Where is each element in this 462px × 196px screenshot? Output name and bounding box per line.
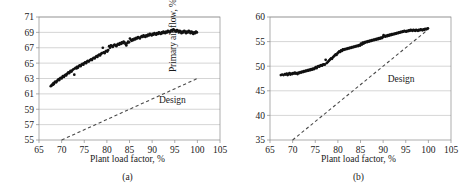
chart-a-data-point [128, 41, 131, 44]
chart-b-y-tick-label: 40 [256, 111, 266, 121]
chart-b-x-tick-label: 80 [333, 145, 343, 155]
chart-b-y-tick-label: 60 [256, 12, 266, 22]
chart-b-y-axis-label: Primary air flow, % of fan capacity [166, 0, 180, 80]
chart-b-y-tick-label: 45 [256, 86, 266, 96]
chart-b-design-annotation: Design [388, 74, 415, 84]
chart-b-x-tick-label: 90 [378, 145, 388, 155]
chart-a-x-tick-label: 70 [57, 145, 67, 155]
chart-a-y-tick-label: 63 [25, 74, 35, 84]
chart-b-data-point [427, 27, 430, 30]
chart-panel-a: 55575961636567697165707580859095100105De… [0, 0, 231, 196]
chart-a-x-tick-label: 80 [102, 145, 112, 155]
chart-b-x-tick-label: 70 [288, 145, 298, 155]
chart-a-design-annotation: Design [159, 95, 186, 105]
chart-a-caption: (a) [30, 172, 225, 182]
chart-b-data-point [324, 58, 327, 61]
chart-a-y-tick-label: 67 [25, 43, 35, 53]
chart-b-svg: 35404550556065707580859095100105Design [231, 0, 462, 196]
figure-container: 55575961636567697165707580859095100105De… [0, 0, 462, 196]
chart-b-plot-frame [270, 17, 451, 140]
chart-b-caption: (b) [261, 172, 456, 182]
chart-a-y-tick-label: 65 [25, 59, 35, 69]
chart-a-svg: 55575961636567697165707580859095100105De… [0, 0, 231, 196]
chart-b-x-tick-label: 85 [356, 145, 366, 155]
chart-b-y-tick-label: 50 [256, 62, 266, 72]
chart-a-x-tick-label: 90 [147, 145, 157, 155]
chart-a-x-tick-label: 105 [213, 145, 228, 155]
chart-a-y-tick-label: 69 [25, 28, 35, 38]
chart-a-y-tick-label: 61 [25, 89, 35, 99]
chart-a-x-tick-label: 95 [170, 145, 180, 155]
chart-a-x-tick-label: 65 [34, 145, 44, 155]
chart-a-y-tick-label: 55 [25, 135, 35, 145]
chart-a-x-tick-label: 85 [125, 145, 135, 155]
chart-panel-b: 35404550556065707580859095100105Design P… [231, 0, 462, 196]
chart-b-x-tick-label: 100 [421, 145, 436, 155]
chart-a-y-tick-label: 57 [25, 120, 35, 130]
chart-a-data-point [196, 31, 199, 34]
chart-a-x-axis-label: Plant load factor, % [30, 154, 225, 164]
chart-a-x-tick-label: 75 [80, 145, 90, 155]
chart-a-data-point [73, 73, 76, 76]
chart-b-x-tick-label: 75 [311, 145, 321, 155]
chart-a-x-tick-label: 100 [190, 145, 205, 155]
chart-b-x-tick-label: 65 [265, 145, 275, 155]
chart-a-y-tick-label: 59 [25, 105, 35, 115]
chart-a-data-point [125, 44, 128, 47]
chart-b-x-tick-label: 95 [401, 145, 411, 155]
chart-b-x-tick-label: 105 [444, 145, 459, 155]
chart-a-data-point [101, 46, 104, 49]
chart-b-y-tick-label: 35 [256, 135, 266, 145]
chart-b-x-axis-label: Plant load factor, % [261, 154, 456, 164]
chart-b-y-tick-label: 55 [256, 37, 266, 47]
chart-a-data-point [107, 49, 110, 52]
chart-a-y-tick-label: 71 [25, 12, 35, 22]
